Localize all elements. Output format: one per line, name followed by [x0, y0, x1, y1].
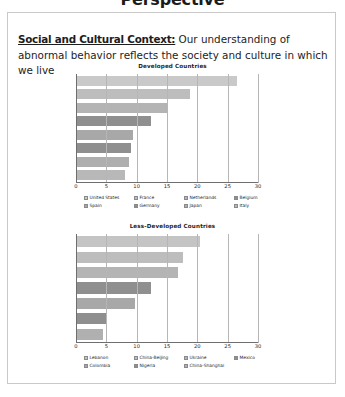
- legend-item: Netherlands: [184, 194, 234, 201]
- legend-item: Mexico: [234, 354, 284, 361]
- plot-area: [76, 74, 258, 183]
- legend-label: Spain: [90, 203, 102, 209]
- bar-japan: [77, 157, 129, 167]
- legend-label: Belgium: [240, 195, 258, 201]
- gridline: [197, 74, 198, 183]
- x-axis-tick-labels: 051015202530: [76, 343, 258, 353]
- legend-item: France: [134, 194, 184, 201]
- bar-united-states: [77, 76, 237, 86]
- legend-label: Colombia: [90, 363, 111, 369]
- x-tick-label: 10: [133, 183, 140, 189]
- gridline: [258, 74, 259, 183]
- gridline: [167, 234, 168, 343]
- gridline: [167, 74, 168, 183]
- legend-item: Japan: [184, 202, 234, 209]
- legend-label: Ukraine: [190, 355, 207, 361]
- gridline: [137, 74, 138, 183]
- x-tick-label: 30: [255, 343, 262, 349]
- lead-in-label: Social and Cultural Context:: [18, 33, 175, 45]
- legend-label: China-Shanghai: [190, 363, 225, 369]
- x-tick-label: 25: [224, 343, 231, 349]
- x-tick-label: 25: [224, 183, 231, 189]
- legend-label: Mexico: [240, 355, 255, 361]
- bar-lebanon: [77, 236, 200, 247]
- legend-swatch-icon: [234, 196, 238, 200]
- x-tick-label: 20: [194, 183, 201, 189]
- x-axis-tick-labels: 051015202530: [76, 183, 258, 193]
- legend-label: Germany: [140, 203, 160, 209]
- legend-swatch-icon: [134, 364, 138, 368]
- x-tick-label: 0: [74, 183, 77, 189]
- bar-china-shanghai: [77, 329, 103, 340]
- legend-item: China-Shanghai: [184, 362, 234, 369]
- legend-item: Nigeria: [134, 362, 184, 369]
- bar-ukraine: [77, 267, 178, 278]
- bar-mexico: [77, 282, 151, 293]
- legend-swatch-icon: [134, 204, 138, 208]
- legend-swatch-icon: [84, 196, 88, 200]
- legend-swatch-icon: [234, 204, 238, 208]
- bar-france: [77, 89, 190, 99]
- x-tick-label: 5: [105, 343, 108, 349]
- chart-legend: LebanonChina-BeijingUkraineMexicoColombi…: [84, 354, 284, 370]
- bar-nigeria: [77, 313, 106, 324]
- chart-less-developed-countries: Less-Developed Countries 051015202530 Le…: [8, 221, 337, 381]
- chart-title: Less-Developed Countries: [8, 221, 337, 232]
- legend-item: Italy: [234, 202, 284, 209]
- chart-title: Developed Countries: [8, 61, 337, 72]
- legend-item: Ukraine: [184, 354, 234, 361]
- bar-italy: [77, 170, 125, 180]
- x-tick-label: 15: [164, 183, 171, 189]
- y-axis-line: [76, 234, 77, 343]
- bar-spain: [77, 130, 133, 140]
- chart-legend: United StatesFranceNetherlandsBelgiumSpa…: [84, 194, 284, 210]
- legend-swatch-icon: [234, 356, 238, 360]
- legend-label: Lebanon: [90, 355, 109, 361]
- plot-inner: [76, 74, 258, 183]
- plot-inner: [76, 234, 258, 343]
- gridline: [137, 234, 138, 343]
- legend-swatch-icon: [184, 364, 188, 368]
- gridline: [197, 234, 198, 343]
- gridline: [258, 234, 259, 343]
- legend-item: Colombia: [84, 362, 134, 369]
- legend-swatch-icon: [84, 356, 88, 360]
- gridline: [106, 234, 107, 343]
- legend-label: France: [140, 195, 155, 201]
- legend-item: Spain: [84, 202, 134, 209]
- legend-swatch-icon: [84, 364, 88, 368]
- content-panel: Social and Cultural Context: Our underst…: [7, 12, 336, 384]
- slide: Perspective Social and Cultural Context:…: [0, 0, 345, 397]
- legend-item: United States: [84, 194, 134, 201]
- y-axis-line: [76, 74, 77, 183]
- bar-belgium: [77, 116, 151, 126]
- gridline: [106, 74, 107, 183]
- legend-label: Netherlands: [190, 195, 217, 201]
- legend-swatch-icon: [184, 196, 188, 200]
- legend-swatch-icon: [184, 356, 188, 360]
- legend-item: Germany: [134, 202, 184, 209]
- legend-label: Italy: [240, 203, 250, 209]
- x-tick-label: 15: [164, 343, 171, 349]
- plot-area: [76, 234, 258, 343]
- legend-label: Japan: [190, 203, 202, 209]
- legend-swatch-icon: [184, 204, 188, 208]
- x-tick-label: 10: [133, 343, 140, 349]
- page-title: Perspective: [0, 0, 345, 9]
- x-tick-label: 5: [105, 183, 108, 189]
- legend-swatch-icon: [134, 356, 138, 360]
- legend-swatch-icon: [134, 196, 138, 200]
- gridline: [228, 234, 229, 343]
- legend-swatch-icon: [84, 204, 88, 208]
- legend-label: China-Beijing: [140, 355, 169, 361]
- legend-item: Lebanon: [84, 354, 134, 361]
- legend-label: Nigeria: [140, 363, 156, 369]
- chart-developed-countries: Developed Countries 051015202530 United …: [8, 61, 337, 221]
- x-tick-label: 30: [255, 183, 262, 189]
- x-tick-label: 0: [74, 343, 77, 349]
- gridline: [228, 74, 229, 183]
- x-tick-label: 20: [194, 343, 201, 349]
- legend-label: United States: [90, 195, 120, 201]
- bar-germany: [77, 143, 131, 153]
- legend-item: China-Beijing: [134, 354, 184, 361]
